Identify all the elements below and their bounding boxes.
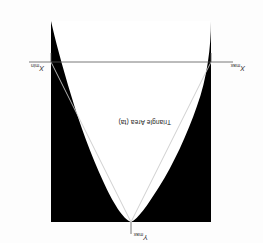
- base-left-label: Xmax: [231, 63, 245, 72]
- base-left-label-symbol: X: [240, 65, 245, 72]
- base-left-label-subscript: max: [231, 63, 240, 69]
- scanned-plate: Ymax Xmax Xmin Triangle Area (ta): [0, 0, 263, 243]
- region-label: Triangle Area (ta): [118, 119, 171, 126]
- apex-label: Ymax: [134, 232, 148, 241]
- base-right-label: Xmin: [31, 63, 44, 72]
- apex-label-subscript: max: [134, 232, 143, 238]
- base-right-label-subscript: min: [31, 63, 39, 69]
- figure-canvas: Ymax Xmax Xmin Triangle Area (ta): [0, 0, 263, 243]
- base-right-label-symbol: X: [39, 65, 44, 72]
- apex-label-symbol: Y: [143, 234, 148, 241]
